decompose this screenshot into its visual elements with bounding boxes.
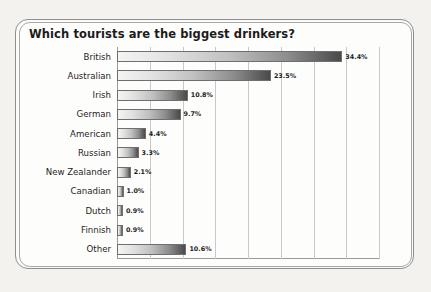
category-label: British xyxy=(84,52,112,62)
category-label: Dutch xyxy=(85,206,111,216)
bar xyxy=(117,51,342,62)
value-label: 10.6% xyxy=(189,245,211,253)
bar xyxy=(117,244,186,255)
bar xyxy=(117,225,123,236)
bar-series: British34.4%Australian23.5%Irish10.8%Ger… xyxy=(117,47,379,259)
category-label: Australian xyxy=(68,71,111,81)
category-label: American xyxy=(70,129,111,139)
value-label: 23.5% xyxy=(274,72,296,80)
value-label: 4.4% xyxy=(149,130,167,138)
bar-row: Finnish0.9% xyxy=(117,220,379,239)
bar xyxy=(117,186,124,197)
category-label: Canadian xyxy=(70,186,111,196)
bar xyxy=(117,109,181,120)
bar-row: British34.4% xyxy=(117,47,379,66)
bar-row: Other10.6% xyxy=(117,240,379,259)
value-label: 3.3% xyxy=(142,149,160,157)
category-label: Other xyxy=(87,244,111,254)
bar-row: Russian3.3% xyxy=(117,143,379,162)
value-label: 9.7% xyxy=(184,110,202,118)
bar-row: Australian23.5% xyxy=(117,66,379,85)
category-label: Russian xyxy=(78,148,111,158)
value-label: 10.8% xyxy=(191,91,213,99)
plot-area: British34.4%Australian23.5%Irish10.8%Ger… xyxy=(117,47,379,259)
bar-row: Irish10.8% xyxy=(117,86,379,105)
bar-row: American4.4% xyxy=(117,124,379,143)
category-label: New Zealander xyxy=(46,167,111,177)
category-label: Irish xyxy=(93,90,111,100)
bar xyxy=(117,147,139,158)
bar xyxy=(117,167,131,178)
gridline-40 xyxy=(379,47,380,259)
value-label: 1.0% xyxy=(127,187,145,195)
value-label: 0.9% xyxy=(126,226,144,234)
chart-page: Which tourists are the biggest drinkers?… xyxy=(0,0,431,292)
bar-row: Dutch0.9% xyxy=(117,201,379,220)
bar-row: German9.7% xyxy=(117,105,379,124)
bar xyxy=(117,205,123,216)
bar-row: Canadian1.0% xyxy=(117,182,379,201)
bar xyxy=(117,70,271,81)
bar xyxy=(117,128,146,139)
category-label: German xyxy=(77,109,111,119)
chart-title: Which tourists are the biggest drinkers? xyxy=(29,27,295,41)
value-label: 0.9% xyxy=(126,207,144,215)
value-label: 34.4% xyxy=(345,53,367,61)
value-label: 2.1% xyxy=(134,168,152,176)
bar xyxy=(117,90,188,101)
bar-row: New Zealander2.1% xyxy=(117,163,379,182)
category-label: Finnish xyxy=(81,225,111,235)
